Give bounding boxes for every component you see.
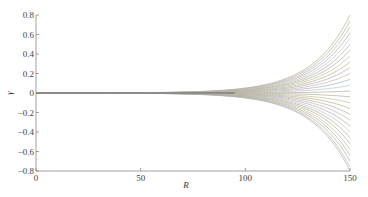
curve-series <box>36 93 350 171</box>
x-tick-label: 50 <box>136 173 146 183</box>
x-tick-label: 0 <box>34 173 39 183</box>
y-tick-label: −0.2 <box>18 108 34 118</box>
y-tick-label: −0.6 <box>18 147 35 157</box>
curve-series-group <box>36 15 350 171</box>
curve-series <box>36 93 350 120</box>
curve-series <box>36 93 350 161</box>
y-tick-label: 0.6 <box>23 30 35 40</box>
curve-series <box>36 50 350 93</box>
x-tick-label: 150 <box>343 173 357 183</box>
curve-series <box>36 74 350 93</box>
y-tick-label: 0.8 <box>23 10 35 20</box>
x-axis-label: R <box>182 180 189 190</box>
x-axis-ticks: 050100150 <box>34 168 358 183</box>
curve-series <box>36 15 350 93</box>
y-tick-label: −0.4 <box>18 127 35 137</box>
curve-series <box>36 93 350 150</box>
y-axis-label: γ <box>4 91 14 95</box>
x-tick-label: 100 <box>239 173 253 183</box>
y-tick-label: 0.4 <box>23 49 35 59</box>
y-tick-label: 0 <box>30 88 35 98</box>
curve-series <box>36 27 350 93</box>
y-tick-label: 0.2 <box>23 69 34 79</box>
line-chart: 0.80.60.40.20−0.2−0.4−0.6−0.8 050100150 … <box>0 0 368 197</box>
y-tick-label: −0.8 <box>18 166 35 176</box>
curve-series <box>36 38 350 93</box>
